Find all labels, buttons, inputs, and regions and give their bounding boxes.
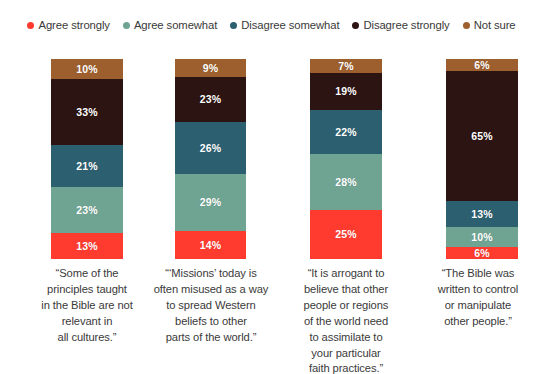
- bar-segment[interactable]: 13%: [446, 201, 518, 227]
- bar-segment-value: 23%: [76, 205, 98, 216]
- bar-segment[interactable]: 13%: [51, 233, 123, 259]
- stacked-bar: 6%65%13%10%6%: [446, 59, 518, 259]
- bar-caption-line: to assimilate to: [283, 330, 409, 346]
- bar-caption: “It is arrogant tobelieve that otherpeop…: [283, 266, 409, 374]
- bar-segment[interactable]: 6%: [446, 59, 518, 71]
- legend-dot-icon: [463, 22, 470, 29]
- bar-segment-value: 10%: [471, 232, 493, 243]
- bar-segment[interactable]: 21%: [51, 145, 123, 187]
- bar-column: 10%33%21%23%13%: [51, 59, 123, 259]
- bar-caption: “Some of theprinciples taughtin the Bibl…: [24, 266, 150, 346]
- bar-segment-value: 26%: [200, 143, 222, 154]
- bar-segment[interactable]: 10%: [446, 227, 518, 247]
- bar-caption-line: written to control: [414, 282, 542, 298]
- legend-item[interactable]: Agree somewhat: [123, 20, 217, 31]
- stacked-bar: 7%19%22%28%25%: [310, 59, 382, 259]
- legend-item-label: Agree strongly: [38, 20, 109, 31]
- bar-caption-line: people or regions: [283, 298, 409, 314]
- chart-legend: Agree stronglyAgree somewhatDisagree som…: [0, 16, 543, 36]
- stacked-bar-chart-plot: 10%33%21%23%13%9%23%26%29%14%7%19%22%28%…: [0, 59, 543, 259]
- bar-caption-line: relevant in: [24, 314, 150, 330]
- bar-caption-line: parts of the world.”: [148, 330, 274, 346]
- bar-segment-value: 21%: [76, 161, 98, 172]
- bar-caption-line: your particular: [283, 346, 409, 362]
- bar-segment-value: 22%: [335, 127, 357, 138]
- bar-segment[interactable]: 33%: [51, 79, 123, 145]
- bar-segment[interactable]: 29%: [175, 174, 246, 231]
- bar-caption-line: often misused as a way: [148, 282, 274, 298]
- bar-caption-line: beliefs to other: [148, 314, 274, 330]
- bar-caption-line: all cultures.”: [24, 330, 150, 346]
- bar-segment-value: 65%: [471, 131, 493, 142]
- legend-dot-icon: [230, 22, 237, 29]
- bar-segment[interactable]: 23%: [51, 187, 123, 233]
- bar-segment[interactable]: 26%: [175, 122, 246, 173]
- bar-segment-value: 14%: [200, 240, 222, 251]
- bar-segment-value: 13%: [76, 241, 98, 252]
- bar-segment[interactable]: 9%: [175, 59, 246, 77]
- bar-segment-value: 23%: [200, 94, 222, 105]
- bar-caption-line: believe that other: [283, 282, 409, 298]
- bar-segment[interactable]: 14%: [175, 231, 246, 259]
- bar-column: 7%19%22%28%25%: [310, 59, 382, 259]
- bar-caption-line: other people.”: [414, 314, 542, 330]
- bar-segment[interactable]: 22%: [310, 110, 382, 154]
- bar-caption-line: “‘Missions’ today is: [148, 266, 274, 282]
- bar-segment-value: 29%: [200, 197, 222, 208]
- legend-item-label: Disagree strongly: [363, 20, 449, 31]
- bar-segment-value: 6%: [474, 60, 490, 71]
- bar-caption: “The Bible waswritten to controlor manip…: [414, 266, 542, 330]
- bar-segment-value: 13%: [471, 209, 493, 220]
- bar-caption-line: or manipulate: [414, 298, 542, 314]
- bar-caption-line: principles taught: [24, 282, 150, 298]
- bar-column: 9%23%26%29%14%: [175, 59, 246, 259]
- bar-segment[interactable]: 19%: [310, 73, 382, 111]
- bar-segment[interactable]: 7%: [310, 59, 382, 73]
- legend-dot-icon: [352, 22, 359, 29]
- bar-segment-value: 25%: [335, 229, 357, 240]
- bar-caption-line: “It is arrogant to: [283, 266, 409, 282]
- bar-caption-line: “The Bible was: [414, 266, 542, 282]
- stacked-bar: 9%23%26%29%14%: [175, 59, 246, 259]
- legend-item-label: Not sure: [474, 20, 516, 31]
- bar-caption-line: to spread Western: [148, 298, 274, 314]
- bar-caption-line: faith practices.”: [283, 361, 409, 374]
- legend-item-label: Disagree somewhat: [241, 20, 339, 31]
- legend-item[interactable]: Agree strongly: [27, 20, 109, 31]
- bar-segment-value: 9%: [203, 63, 219, 74]
- legend-dot-icon: [123, 22, 130, 29]
- legend-item[interactable]: Disagree strongly: [352, 20, 449, 31]
- legend-item-label: Agree somewhat: [134, 20, 217, 31]
- bar-segment[interactable]: 6%: [446, 247, 518, 259]
- bar-segment-value: 6%: [474, 248, 490, 259]
- legend-dot-icon: [27, 22, 34, 29]
- bar-segment[interactable]: 10%: [51, 59, 123, 79]
- bar-segment[interactable]: 23%: [175, 77, 246, 123]
- bar-segment-value: 19%: [335, 86, 357, 97]
- legend-item[interactable]: Disagree somewhat: [230, 20, 339, 31]
- bar-caption-line: “Some of the: [24, 266, 150, 282]
- bar-caption: “‘Missions’ today isoften misused as a w…: [148, 266, 274, 346]
- bar-segment-value: 28%: [335, 177, 357, 188]
- bar-segment[interactable]: 28%: [310, 154, 382, 209]
- stacked-bar: 10%33%21%23%13%: [51, 59, 123, 259]
- legend-item[interactable]: Not sure: [463, 20, 516, 31]
- bar-caption-line: of the world need: [283, 314, 409, 330]
- bar-segment[interactable]: 65%: [446, 71, 518, 201]
- bar-caption-line: in the Bible are not: [24, 298, 150, 314]
- bar-segment-value: 7%: [338, 61, 354, 72]
- bar-segment-value: 33%: [76, 107, 98, 118]
- bar-segment[interactable]: 25%: [310, 210, 382, 260]
- chart-category-captions: “Some of theprinciples taughtin the Bibl…: [0, 266, 543, 374]
- bar-column: 6%65%13%10%6%: [446, 59, 518, 259]
- bar-segment-value: 10%: [76, 64, 98, 75]
